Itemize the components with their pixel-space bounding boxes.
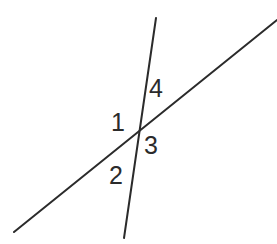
figure-background (0, 0, 277, 244)
angle-label-4: 4 (149, 76, 163, 101)
angle-label-1: 1 (111, 110, 125, 135)
geometry-canvas (0, 0, 277, 244)
angle-label-2: 2 (109, 163, 123, 188)
angle-label-3: 3 (144, 133, 158, 158)
angle-diagram-figure: 1 2 3 4 (0, 0, 277, 244)
